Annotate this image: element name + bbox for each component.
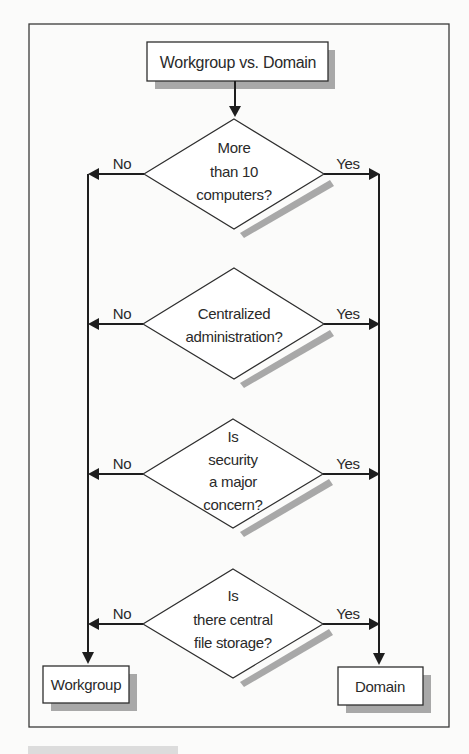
decision-label-line: More: [218, 139, 251, 156]
decision-label-line: concern?: [203, 496, 262, 513]
decision-label-line: administration?: [185, 328, 282, 345]
caption-remnant: [28, 746, 178, 754]
workgroup-outcome-node: Workgroup: [43, 666, 137, 711]
decision-node: Centralized administration?: [143, 268, 334, 388]
decision-node: Is there central file storage?: [143, 569, 333, 687]
no-branch-label: No: [113, 305, 132, 322]
decision-label-line: than 10: [210, 163, 258, 180]
domain-outcome-label: Domain: [355, 678, 405, 695]
no-trunk-arrowhead: [82, 652, 94, 664]
yes-branch-label: Yes: [336, 455, 360, 472]
decision-label-line: Is: [227, 428, 238, 445]
no-branch-arrowhead: [88, 618, 99, 630]
decision-label-line: security: [208, 451, 258, 468]
no-branch-label: No: [113, 155, 132, 172]
yes-branch-label: Yes: [336, 305, 360, 322]
yes-branch-label: Yes: [336, 605, 360, 622]
decision-label-line: Centralized: [198, 305, 271, 322]
no-branch-arrowhead: [88, 318, 99, 330]
no-branch-label: No: [113, 455, 132, 472]
no-branch-arrowhead: [88, 468, 99, 480]
title-node-label: Workgroup vs. Domain: [160, 54, 316, 71]
decision-label-line: there central: [193, 611, 272, 628]
title-node: Workgroup vs. Domain: [147, 42, 335, 89]
decision-label-line: a major: [209, 473, 257, 490]
workgroup-outcome-label: Workgroup: [51, 676, 121, 693]
yes-branch-label: Yes: [336, 155, 360, 172]
decision-node: More than 10 computers?: [144, 119, 334, 238]
decision-label-line: Is: [227, 587, 238, 604]
yes-trunk-arrowhead: [373, 653, 385, 665]
decision-label-line: file storage?: [194, 634, 272, 651]
start-arrowhead: [229, 106, 241, 117]
no-branch-label: No: [113, 605, 132, 622]
flowchart-diagram: Workgroup vs. Domain More than 10 comput…: [0, 0, 469, 754]
decision-diamond: [143, 268, 324, 379]
no-branch-arrowhead: [88, 168, 99, 180]
decision-label-line: computers?: [196, 186, 271, 203]
decision-node: Is security a major concern?: [143, 419, 333, 537]
domain-outcome-node: Domain: [338, 667, 431, 713]
